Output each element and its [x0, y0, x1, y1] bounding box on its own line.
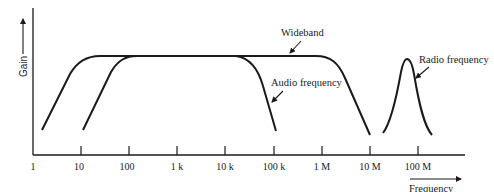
tick-label-10: 10 — [74, 161, 84, 172]
audio-pointer-arrow-icon — [272, 91, 283, 102]
radio-frequency-annotation: Radio frequency — [416, 54, 489, 78]
tick-label-100M: 100 M — [405, 161, 432, 172]
audio-frequency-curve — [83, 56, 276, 131]
tick-label-100k: 100 k — [263, 161, 286, 172]
x-ticks — [81, 146, 418, 155]
audio-frequency-annotation: Audio frequency — [271, 77, 343, 102]
wideband-annotation: Wideband — [281, 27, 324, 53]
frequency-response-diagram: Gain 1 10 100 1 k 10 k 100 k 1 M 10 M 10… — [0, 0, 494, 192]
tick-label-1k: 1 k — [171, 161, 184, 172]
wideband-curve — [42, 56, 370, 135]
tick-label-1: 1 — [31, 161, 36, 172]
wideband-pointer-arrow-icon — [290, 41, 301, 53]
gain-axis-title: Gain — [18, 19, 29, 77]
frequency-axis-title: Frequency — [409, 179, 461, 192]
tick-label-100: 100 — [120, 161, 135, 172]
tick-label-10k: 10 k — [216, 161, 234, 172]
audio-frequency-label: Audio frequency — [271, 77, 343, 88]
radio-pointer-arrow-icon — [416, 67, 429, 78]
tick-label-10M: 10 M — [359, 161, 381, 172]
radio-frequency-label: Radio frequency — [419, 54, 489, 65]
x-tick-labels: 1 10 100 1 k 10 k 100 k 1 M 10 M 100 M — [31, 161, 432, 172]
gain-label: Gain — [18, 56, 29, 77]
frequency-label: Frequency — [409, 183, 454, 192]
wideband-label: Wideband — [281, 27, 324, 38]
tick-label-1M: 1 M — [314, 161, 331, 172]
